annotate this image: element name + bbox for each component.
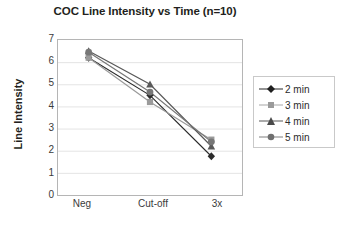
data-point-5-min	[208, 138, 215, 145]
legend-item-3min[interactable]: 3 min	[254, 97, 334, 113]
legend-marker-square-icon	[258, 98, 284, 112]
legend-label: 2 min	[285, 84, 309, 95]
data-point-3-min	[147, 99, 153, 105]
legend-item-4min[interactable]: 4 min	[254, 113, 334, 129]
legend-label: 3 min	[285, 100, 309, 111]
legend-marker-triangle-icon	[258, 114, 284, 128]
chart-legend: 2 min 3 min 4 min	[253, 76, 335, 148]
legend-label: 5 min	[285, 132, 309, 143]
legend-label: 4 min	[285, 116, 309, 127]
legend-marker-circle-icon	[258, 130, 284, 144]
chart-container: COC Line Intensity vs Time (n=10) Line I…	[0, 0, 344, 226]
legend-item-2min[interactable]: 2 min	[254, 81, 334, 97]
legend-marker-diamond-icon	[258, 82, 284, 96]
legend-item-5min[interactable]: 5 min	[254, 129, 334, 145]
data-point-5-min	[85, 49, 92, 56]
data-point-5-min	[147, 89, 154, 96]
